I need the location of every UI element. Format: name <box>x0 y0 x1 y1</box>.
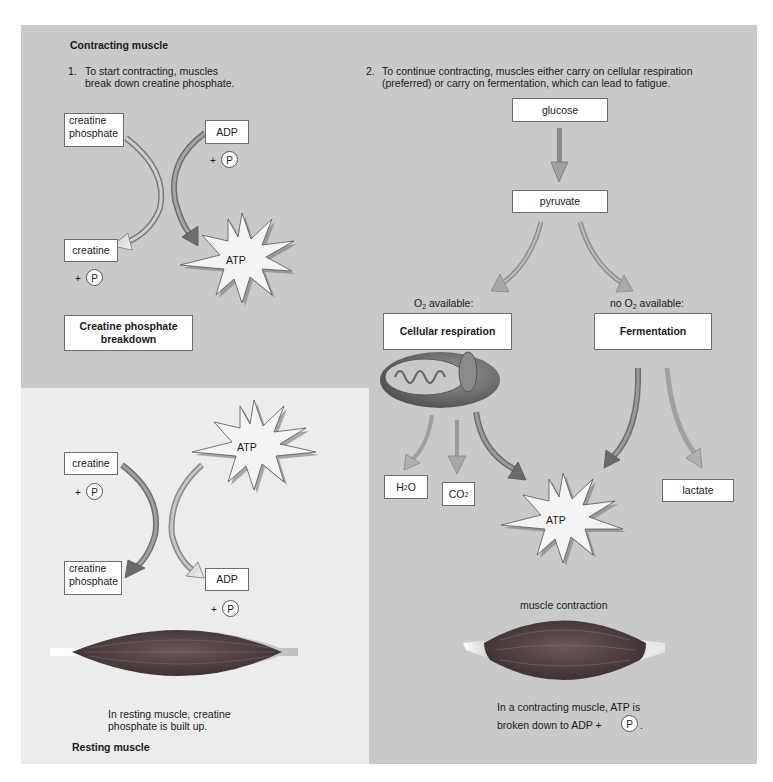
plus-sign: + <box>75 273 81 284</box>
h2o-box: H2O <box>384 475 428 499</box>
phosphate-circle: P <box>86 483 103 500</box>
phosphate-circle: P <box>86 269 103 286</box>
atp-label-breakdown: ATP <box>226 254 246 266</box>
glucose-box: glucose <box>512 98 608 122</box>
phosphate-circle: P <box>221 151 238 168</box>
creatine-phosphate-line1: creatine <box>69 114 106 127</box>
adp-box-resting: ADP <box>205 568 249 591</box>
arrow-to-co2 <box>448 420 466 474</box>
arrow-atp-to-adp <box>172 465 204 578</box>
lactate-box: lactate <box>662 479 734 502</box>
arrow-pyruvate-to-fermentation <box>580 222 633 292</box>
creatine-box-breakdown: creatine <box>64 239 118 262</box>
adp-box-breakdown: ADP <box>205 120 249 144</box>
creatine-phosphate-box-breakdown: creatine phosphate <box>64 113 124 147</box>
creatine-phosphate-line1: creatine <box>69 562 106 575</box>
creatine-box-resting: creatine <box>64 452 118 475</box>
arrow-to-h2o <box>404 415 432 470</box>
resting-muscle-title: Resting muscle <box>72 741 150 754</box>
cellular-respiration-box: Cellular respiration <box>383 313 512 350</box>
step2-line2: (preferred) or carry on fermentation, wh… <box>382 77 670 90</box>
creatine-phosphate-box-resting: creatine phosphate <box>64 561 122 595</box>
co2-box: CO2 <box>442 482 475 506</box>
step1-number: 1. <box>68 65 77 78</box>
resting-muscle-illustration <box>50 630 298 676</box>
arrow-pyruvate-to-respiration <box>491 222 541 292</box>
arrow-fermentation-to-lactate <box>667 368 702 468</box>
o2-available-label: O2 available: <box>414 297 473 313</box>
caption-period: . <box>640 719 643 732</box>
arrow-adp-to-atp <box>174 133 205 246</box>
arrow-respiration-to-atp <box>476 412 526 480</box>
caption-line1: Creatine phosphate <box>79 320 177 333</box>
arrow-glucose-to-pyruvate <box>551 128 568 182</box>
creatine-phosphate-line2: phosphate <box>69 575 118 588</box>
contracting-muscle-illustration <box>463 621 665 681</box>
contracting-caption-line1: In a contracting muscle, ATP is <box>497 701 640 714</box>
muscle-contraction-label: muscle contraction <box>520 599 608 612</box>
atp-label-resting: ATP <box>237 441 257 453</box>
creatine-phosphate-breakdown-caption: Creatine phosphate breakdown <box>64 315 193 351</box>
plus-sign: + <box>211 604 217 615</box>
phosphate-circle: P <box>222 600 239 617</box>
contracting-caption-line2: broken down to ADP + <box>497 719 602 732</box>
fermentation-box: Fermentation <box>594 313 712 350</box>
step1-line2: break down creatine phosphate. <box>85 77 234 90</box>
phosphate-circle: P <box>621 715 638 732</box>
contracting-muscle-title: Contracting muscle <box>70 39 168 52</box>
plus-sign: + <box>210 155 216 166</box>
mitochondrion-icon <box>380 352 500 408</box>
caption-line2: breakdown <box>101 333 156 346</box>
pyruvate-box: pyruvate <box>512 190 608 213</box>
atp-label-respiration: ATP <box>546 514 566 526</box>
arrow-fermentation-to-atp <box>604 368 638 468</box>
plus-sign: + <box>75 487 81 498</box>
step2-number: 2. <box>366 65 375 78</box>
resting-caption-line2: phosphate is built up. <box>108 720 207 733</box>
no-o2-available-label: no O2 available: <box>610 297 684 313</box>
arrow-creatine-to-creatine-phosphate <box>122 465 156 578</box>
creatine-phosphate-line2: phosphate <box>69 127 118 140</box>
arrow-creatine-phosphate-to-creatine <box>112 138 161 250</box>
